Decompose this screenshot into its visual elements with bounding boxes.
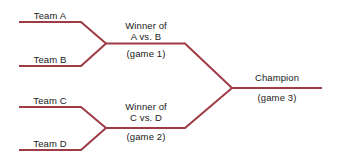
label-game-3-number: (game 3) xyxy=(258,92,297,103)
label-team-c: Team C xyxy=(33,95,66,106)
label-team-d: Team D xyxy=(33,138,66,149)
connector-team-a xyxy=(19,22,106,44)
label-game-2-number: (game 2) xyxy=(127,131,166,142)
label-game-1-line-1: Winner of xyxy=(125,20,167,31)
label-champion: Champion xyxy=(255,72,299,83)
connector-game-1-out xyxy=(106,44,232,89)
label-game-1-line-2: A vs. B xyxy=(131,31,161,42)
label-game-2-line-1: Winner of xyxy=(125,101,167,112)
tournament-bracket-diagram: Team A Team B Team C Team D Winner of A … xyxy=(0,0,341,157)
label-team-b: Team B xyxy=(34,54,67,65)
label-team-a: Team A xyxy=(34,10,66,21)
label-game-2-line-2: C vs. D xyxy=(130,112,162,123)
connector-team-c xyxy=(19,107,106,128)
label-game-1-number: (game 1) xyxy=(127,48,166,59)
